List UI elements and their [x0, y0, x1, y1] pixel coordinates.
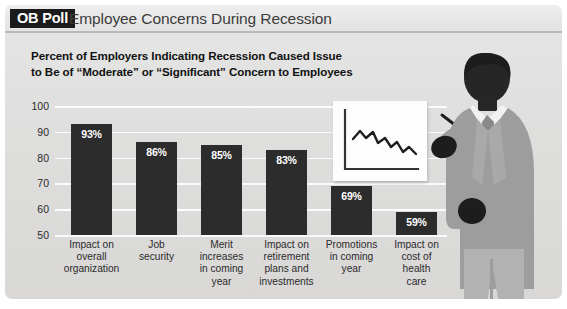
- x-axis-category-label-line: plans and: [250, 263, 324, 275]
- bar-value-label: 93%: [71, 128, 112, 140]
- x-axis-category-label-line: Impact on: [250, 239, 324, 251]
- y-axis-tick-label: 70: [37, 177, 49, 189]
- x-axis-category-label-line: organization: [55, 263, 129, 275]
- x-axis-category-label-line: overall: [55, 251, 129, 263]
- bar-value-label: 83%: [266, 154, 307, 166]
- bar-value-label: 69%: [331, 190, 372, 202]
- x-axis-category-label-line: increases: [185, 251, 259, 263]
- x-axis-category-label-line: Merit: [185, 239, 259, 251]
- bar: 93%: [71, 124, 112, 235]
- poster-header: OB Poll Employee Concerns During Recessi…: [5, 5, 562, 31]
- x-axis-category-label-line: in coming: [185, 263, 259, 275]
- page-title: Employee Concerns During Recession: [69, 8, 332, 29]
- x-axis-category-label: Impact onoverallorganization: [55, 239, 129, 276]
- x-axis-category-label: Promotionsin comingyear: [315, 239, 389, 276]
- x-axis-category-label-line: security: [120, 251, 194, 263]
- y-axis-tick-label: 80: [37, 152, 49, 164]
- bar: 86%: [136, 142, 177, 235]
- bar: 85%: [201, 145, 242, 235]
- bar-value-label: 86%: [136, 146, 177, 158]
- ob-poll-badge: OB Poll: [10, 9, 75, 28]
- chart-subtitle-line-2: to Be of “Moderate” or “Significant” Con…: [31, 64, 431, 80]
- bar: 83%: [266, 150, 307, 235]
- y-axis-tick-label: 100: [31, 100, 49, 112]
- bar: 69%: [331, 186, 372, 235]
- declining-line-chart-icon: [333, 101, 427, 181]
- businessman-silhouette-icon: [430, 53, 562, 299]
- x-axis-baseline: [55, 235, 447, 237]
- x-axis-category-label-line: Promotions: [315, 239, 389, 251]
- x-axis-category-label-line: investments: [250, 276, 324, 288]
- gridline: 60: [55, 209, 447, 211]
- x-axis-category-label-line: Job: [120, 239, 194, 251]
- gridline: 70: [55, 183, 447, 185]
- x-axis-category-label-line: in coming: [315, 251, 389, 263]
- chart-subtitle: Percent of Employers Indicating Recessio…: [31, 48, 431, 79]
- x-axis-category-label: Impact onretirementplans andinvestments: [250, 239, 324, 288]
- chart-subtitle-line-1: Percent of Employers Indicating Recessio…: [31, 48, 431, 64]
- x-axis-category-label-line: year: [315, 263, 389, 275]
- businessman-figure: [430, 53, 562, 299]
- x-axis-category-label-line: retirement: [250, 251, 324, 263]
- poll-poster: OB Poll Employee Concerns During Recessi…: [5, 5, 562, 299]
- x-axis-category-label: Meritincreasesin comingyear: [185, 239, 259, 288]
- header-divider: [5, 31, 562, 33]
- x-axis-category-label-line: year: [185, 276, 259, 288]
- presentation-board: [333, 101, 427, 181]
- x-axis-category-label: Jobsecurity: [120, 239, 194, 263]
- y-axis-tick-label: 90: [37, 126, 49, 138]
- y-axis-tick-label: 60: [37, 203, 49, 215]
- x-axis-category-label-line: Impact on: [55, 239, 129, 251]
- y-axis-tick-label: 50: [37, 229, 49, 241]
- bar-value-label: 85%: [201, 149, 242, 161]
